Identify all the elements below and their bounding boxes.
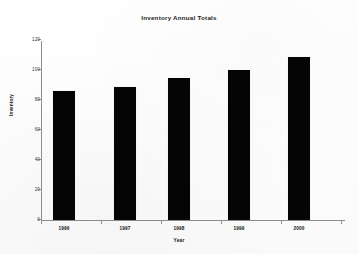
- x-tick-label-1999: 1999: [219, 226, 259, 231]
- x-tick-2: [161, 221, 162, 224]
- y-axis-line: [41, 41, 42, 222]
- x-tick-label-1996: 1996: [44, 226, 84, 231]
- x-tick-1: [101, 221, 102, 224]
- y-tick-label-60: 60: [14, 127, 40, 132]
- x-axis-title: Year: [0, 238, 358, 243]
- x-tick-3: [221, 221, 222, 224]
- x-tick-label-1997: 1997: [105, 226, 145, 231]
- bar-1996: [53, 91, 75, 220]
- y-tick-label-120: 120: [14, 37, 40, 42]
- x-tick-4: [281, 221, 282, 224]
- chart-screenshot: Inventory Annual Totals Inventory 0 20 4…: [0, 0, 358, 254]
- y-tick-label-100: 100: [14, 67, 40, 72]
- bar-1998: [168, 78, 190, 221]
- y-tick-label-20: 20: [14, 187, 40, 192]
- x-tick-0: [41, 221, 42, 224]
- plot-area: 0 20 40 60 80 100 120: [41, 41, 345, 221]
- x-tick-label-1998: 1998: [159, 226, 199, 231]
- bar-2000: [288, 57, 310, 221]
- chart-title: Inventory Annual Totals: [0, 14, 358, 21]
- y-tick-label-0: 0: [14, 217, 40, 222]
- y-tick-label-80: 80: [14, 97, 40, 102]
- bar-1999: [228, 70, 250, 220]
- x-tick-5: [341, 221, 342, 224]
- x-axis-line: [41, 220, 345, 221]
- x-tick-label-2000: 2000: [279, 226, 319, 231]
- y-tick-label-40: 40: [14, 157, 40, 162]
- bar-1997: [114, 87, 136, 221]
